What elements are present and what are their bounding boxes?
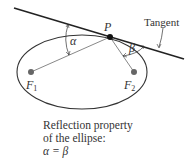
caption-line-1: Reflection property: [43, 119, 133, 132]
caption: Reflection property of the ellipse: α = …: [43, 119, 133, 158]
tangent-label: Tangent: [144, 16, 179, 28]
focus-f2: [131, 69, 137, 75]
caption-line-3: α = β: [43, 145, 133, 158]
point-p: [107, 34, 113, 40]
beta-label: β: [128, 41, 135, 55]
focus1-label: F1: [25, 78, 37, 93]
caption-line-2: of the ellipse:: [43, 132, 133, 145]
ellipse: [17, 35, 147, 109]
point-p-label: P: [103, 20, 112, 34]
alpha-label: α: [70, 34, 77, 48]
alpha-arc: [66, 25, 69, 55]
focus-f1: [28, 69, 34, 75]
focus2-label: F2: [123, 78, 135, 93]
